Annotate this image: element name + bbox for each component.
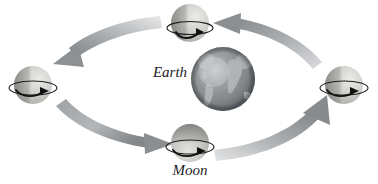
moon-label: Moon (172, 162, 208, 178)
orbit-arrow-top-left (53, 16, 162, 67)
moon-right-terminator (325, 66, 363, 104)
earth-globe (191, 47, 255, 111)
earth-rim-shading (191, 47, 255, 111)
orbit-arrow-bottom-left (56, 99, 173, 154)
moon-top (167, 4, 213, 42)
diagram-canvas: Earth Moon (0, 0, 378, 184)
orbit-arrowhead-top (213, 13, 241, 34)
moon-left-terminator (14, 66, 52, 104)
orbit-ribbon-bottom-right (214, 108, 321, 161)
moon-bottom (166, 124, 214, 162)
earth-label: Earth (152, 64, 187, 80)
orbit-ribbon-top-left (69, 16, 162, 58)
moon-orbit-diagram: Earth Moon (0, 0, 378, 184)
moon-left (9, 66, 57, 104)
orbit-ribbon-bottom-left (56, 99, 149, 148)
